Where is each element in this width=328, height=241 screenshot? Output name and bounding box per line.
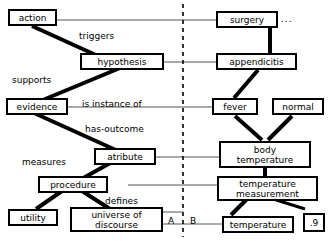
diagram-edges-layer bbox=[0, 0, 328, 241]
node-surgery[interactable]: surgery bbox=[216, 11, 278, 28]
node-normal[interactable]: normal bbox=[272, 98, 324, 115]
edge-label-triggers: triggers bbox=[79, 31, 114, 41]
edge-normal-bodytemp bbox=[268, 116, 292, 140]
zone-label-b: B bbox=[190, 216, 196, 226]
node-universe-of-discourse[interactable]: universe of discourse bbox=[70, 207, 163, 232]
node-universe-of-discourse-label: universe of discourse bbox=[91, 210, 141, 230]
surgery-ellipsis: ... bbox=[281, 14, 293, 24]
node-action[interactable]: action bbox=[8, 9, 57, 26]
node-atribute[interactable]: atribute bbox=[94, 148, 156, 165]
node-appendicitis[interactable]: appendicitis bbox=[216, 53, 297, 70]
node-utility-label: utility bbox=[20, 213, 46, 223]
node-body-temperature-label: body temperature bbox=[237, 145, 294, 165]
edge-procedure-utility bbox=[36, 191, 62, 209]
edge-label-supports: supports bbox=[12, 75, 51, 85]
node-body-temperature[interactable]: body temperature bbox=[219, 141, 311, 168]
edge-label-has-outcome: has-outcome bbox=[85, 124, 144, 134]
node-procedure-label: procedure bbox=[50, 180, 96, 190]
edge-label-is-instance-of: is instance of bbox=[82, 99, 142, 109]
diagram-canvas: action hypothesis evidence atribute proc… bbox=[0, 0, 328, 241]
node-surgery-label: surgery bbox=[230, 15, 264, 25]
node-procedure[interactable]: procedure bbox=[38, 176, 108, 193]
node-temperature-measurement[interactable]: temperature measurement bbox=[217, 176, 318, 201]
node-temperature-label: temperature bbox=[230, 220, 287, 230]
edge-hypothesis-evidence bbox=[38, 68, 120, 102]
node-fever-label: fever bbox=[223, 102, 246, 112]
node-hypothesis-label: hypothesis bbox=[98, 57, 147, 67]
node-hypothesis[interactable]: hypothesis bbox=[80, 53, 164, 70]
node-normal-label: normal bbox=[282, 102, 314, 112]
edge-fever-bodytemp bbox=[235, 116, 262, 140]
edge-label-measures: measures bbox=[22, 157, 66, 167]
node-action-label: action bbox=[19, 13, 47, 23]
node-evidence[interactable]: evidence bbox=[6, 98, 68, 115]
node-certainty-value[interactable]: .9 bbox=[303, 213, 325, 232]
node-certainty-value-label: .9 bbox=[310, 218, 319, 228]
node-evidence-label: evidence bbox=[17, 102, 58, 112]
edge-appendicitis-fever bbox=[234, 70, 258, 98]
edge-label-defines: defines bbox=[105, 196, 138, 206]
zone-label-a: A bbox=[168, 216, 174, 226]
node-appendicitis-label: appendicitis bbox=[229, 57, 284, 67]
node-temperature[interactable]: temperature bbox=[222, 216, 294, 233]
node-atribute-label: atribute bbox=[107, 152, 143, 162]
node-utility[interactable]: utility bbox=[8, 209, 58, 226]
node-fever[interactable]: fever bbox=[212, 98, 258, 115]
node-temperature-measurement-label: temperature measurement bbox=[236, 179, 299, 199]
